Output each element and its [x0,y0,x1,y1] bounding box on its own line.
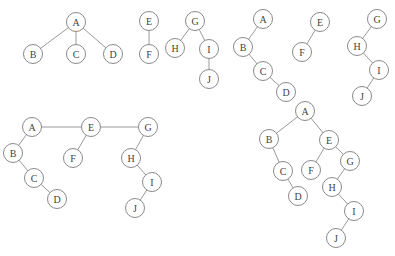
node-label: G [191,16,198,27]
node-label: G [373,14,380,25]
node-label: G [144,122,151,133]
node-label: I [207,44,210,55]
node-B: B [234,38,253,57]
node-C: C [67,45,86,64]
node-label: C [73,49,80,60]
node-label: G [346,156,353,167]
each-tree-as-binary-edges [243,19,379,96]
node-A: A [67,13,86,32]
node-label: E [146,16,152,27]
node-label: J [133,203,137,214]
node-label: D [294,191,301,202]
node-label: F [70,153,76,164]
node-label: I [377,65,380,76]
node-H: H [122,149,141,168]
node-A: A [254,10,273,29]
node-label: H [353,41,360,52]
node-label: B [30,49,37,60]
node-I: I [200,40,219,59]
original-forest-nodes: ABCDEFGHIJ [24,12,219,89]
node-D: D [277,83,296,102]
node-H: H [348,37,367,56]
node-B: B [260,130,279,149]
node-label: F [146,49,152,60]
node-J: J [353,87,372,106]
node-F: F [302,161,321,180]
node-A: A [23,118,42,137]
node-J: J [200,70,219,89]
node-label: B [266,134,273,145]
node-C: C [274,162,293,181]
node-G: G [368,10,387,29]
node-H: H [166,39,185,58]
nodes-layer: ABCDEFGHIJABCDEFGHIJABCDEFGHIJABCDEFGHIJ [4,10,389,248]
node-G: G [186,12,205,31]
node-E: E [82,118,101,137]
node-label: J [334,233,338,244]
node-label: A [259,14,267,25]
node-label: D [53,194,60,205]
node-label: F [308,165,314,176]
node-label: H [127,153,134,164]
node-label: E [88,122,94,133]
node-label: C [260,66,267,77]
node-label: J [207,74,211,85]
node-label: C [280,166,287,177]
node-F: F [293,43,312,62]
node-I: I [345,202,364,221]
node-label: H [171,43,178,54]
node-label: A [28,122,36,133]
node-label: D [109,49,116,60]
node-label: F [299,47,305,58]
node-C: C [25,169,44,188]
node-J: J [126,199,145,218]
each-tree-as-binary-nodes: ABCDEFGHIJ [234,10,389,106]
roots-linked-nodes: ABCDEFGHIJ [4,118,162,218]
node-E: E [320,131,339,150]
node-B: B [4,144,23,163]
node-B: B [24,45,43,64]
node-A: A [296,102,315,121]
node-D: D [48,190,67,209]
node-I: I [370,61,389,80]
node-label: E [326,135,332,146]
node-J: J [327,229,346,248]
node-E: E [140,12,159,31]
final-binary-tree-nodes: ABCDEFGHIJ [260,102,364,248]
node-label: J [360,91,364,102]
forest-to-binary-tree-diagram: ABCDEFGHIJABCDEFGHIJABCDEFGHIJABCDEFGHIJ [0,0,395,256]
node-F: F [140,45,159,64]
node-E: E [311,13,330,32]
node-G: G [139,118,158,137]
node-label: B [240,42,247,53]
node-F: F [64,149,83,168]
node-label: C [31,173,38,184]
node-D: D [289,187,308,206]
node-label: A [301,106,309,117]
node-label: B [10,148,17,159]
node-C: C [254,62,273,81]
node-label: I [150,177,153,188]
node-H: H [323,178,342,197]
node-label: I [352,206,355,217]
node-label: H [328,182,335,193]
node-G: G [341,152,360,171]
node-label: A [72,17,80,28]
node-label: E [317,17,323,28]
node-D: D [104,45,123,64]
node-label: D [282,87,289,98]
node-I: I [143,173,162,192]
